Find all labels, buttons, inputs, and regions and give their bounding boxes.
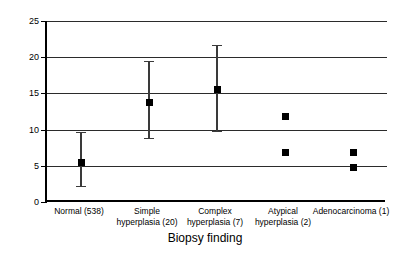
y-tick-label: 20 xyxy=(29,52,39,62)
gridline xyxy=(47,166,387,167)
y-tick-mark xyxy=(41,166,47,167)
error-bar-cap xyxy=(144,138,154,139)
y-tick-mark xyxy=(41,202,47,203)
error-bar-cap xyxy=(144,61,154,62)
error-bar-cap xyxy=(76,132,86,133)
x-tick-label: Adenocarcinoma (1) xyxy=(296,206,406,217)
x-axis-title: Biopsy finding xyxy=(0,231,410,245)
data-point-marker xyxy=(214,86,221,93)
error-bar-cap xyxy=(76,186,86,187)
y-tick-label: 15 xyxy=(29,88,39,98)
error-bar-cap xyxy=(212,131,222,132)
y-tick-label: 25 xyxy=(29,16,39,26)
y-tick-mark xyxy=(41,93,47,94)
y-tick-label: 5 xyxy=(34,161,39,171)
y-tick-mark xyxy=(41,21,47,22)
y-tick-mark xyxy=(41,130,47,131)
error-bar-cap xyxy=(212,45,222,46)
y-tick-label: 10 xyxy=(29,125,39,135)
data-point-marker xyxy=(78,159,85,166)
data-point-marker xyxy=(282,149,289,156)
gridline xyxy=(47,21,387,22)
chart-figure: Endometrial thickness (mm) 0510152025 No… xyxy=(0,0,410,253)
data-point-marker xyxy=(350,164,357,171)
data-point-marker xyxy=(350,149,357,156)
plot-area: 0510152025 xyxy=(45,21,385,202)
data-point-marker xyxy=(282,113,289,120)
y-tick-mark xyxy=(41,57,47,58)
data-point-marker xyxy=(146,99,153,106)
